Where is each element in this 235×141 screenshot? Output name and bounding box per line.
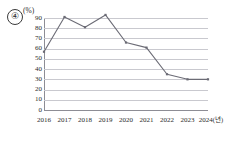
- data-point-2017: [63, 16, 65, 18]
- x-axis-tick-labels: 201620172018201920202021202220232024(년): [44, 116, 235, 128]
- x-tick-label-2022: 2022: [160, 116, 174, 124]
- y-tick-label-40: 40: [26, 66, 42, 73]
- data-point-2020: [125, 41, 127, 43]
- y-tick-label-60: 60: [26, 45, 42, 52]
- x-tick-label-2019: 2019: [99, 116, 113, 124]
- y-tick-label-10: 10: [26, 96, 42, 103]
- data-point-2016: [43, 51, 45, 53]
- y-tick-label-80: 80: [26, 25, 42, 32]
- x-axis-unit-label: (년): [213, 116, 223, 123]
- x-tick-label-2024: 2024(년): [199, 116, 223, 124]
- data-point-2021: [145, 47, 147, 49]
- x-tick-label-2016: 2016: [37, 116, 51, 124]
- item-number-badge: ④: [7, 9, 23, 25]
- data-point-2024: [207, 78, 209, 80]
- y-tick-label-30: 30: [26, 76, 42, 83]
- y-tick-label-90: 90: [26, 15, 42, 22]
- data-point-2018: [84, 26, 86, 28]
- chart-figure: ④ (%) 9080706050403020100 20162017201820…: [0, 0, 235, 141]
- x-tick-label-2023: 2023: [181, 116, 195, 124]
- line-series: [44, 18, 208, 110]
- series-line: [44, 15, 208, 79]
- gridline-0: [44, 110, 208, 111]
- y-tick-label-0: 0: [26, 107, 42, 114]
- x-tick-label-2018: 2018: [78, 116, 92, 124]
- data-point-2023: [186, 78, 188, 80]
- y-tick-label-20: 20: [26, 86, 42, 93]
- x-tick-label-2017: 2017: [58, 116, 72, 124]
- data-point-2019: [104, 14, 106, 16]
- x-tick-label-2020: 2020: [119, 116, 133, 124]
- data-point-2022: [166, 73, 168, 75]
- y-tick-label-50: 50: [26, 55, 42, 62]
- x-tick-label-2021: 2021: [140, 116, 154, 124]
- y-tick-label-70: 70: [26, 35, 42, 42]
- y-axis-tick-labels: 9080706050403020100: [22, 18, 42, 110]
- plot-area: [44, 18, 208, 110]
